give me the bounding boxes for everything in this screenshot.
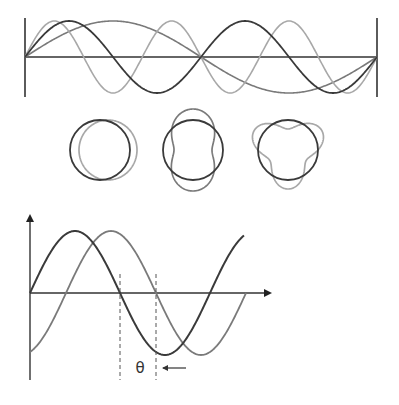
circular-modes-panel: [70, 109, 323, 191]
base-circle: [163, 120, 223, 180]
string-harmonics-panel: [25, 18, 377, 97]
circle-mode-2: [163, 109, 223, 191]
theta-label: θ: [135, 359, 144, 377]
standing-wave-1-lobe: [79, 120, 137, 180]
phase-shift-panel: θ: [30, 216, 270, 380]
diagram-canvas: θ: [0, 0, 399, 405]
circle-mode-3: [252, 120, 323, 189]
standing-wave-2-lobe: [171, 109, 214, 191]
circle-mode-1: [70, 120, 137, 180]
